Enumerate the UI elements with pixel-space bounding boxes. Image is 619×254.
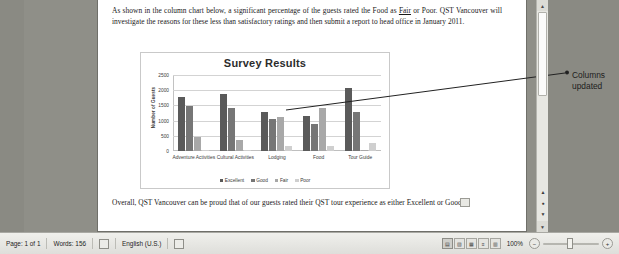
- chart-bar-excellent[interactable]: [178, 97, 185, 151]
- scrollbar-thumb[interactable]: [538, 12, 547, 96]
- outline-view-icon[interactable]: ≡: [478, 238, 489, 249]
- chart-bar-fair[interactable]: [361, 150, 368, 151]
- underlined-word: Fair: [399, 6, 411, 15]
- document-page[interactable]: As shown in the column chart below, a si…: [98, 0, 526, 231]
- chart-bar-poor[interactable]: [244, 150, 251, 151]
- chart-legend-swatch: [251, 179, 254, 182]
- chart-y-axis-title: Number of Guests: [151, 77, 156, 139]
- chart-legend-swatch: [220, 179, 223, 182]
- chart-y-tick-label: 1500: [158, 103, 169, 108]
- callout-leader-line: [280, 60, 580, 110]
- zoom-slider-thumb[interactable]: [567, 238, 573, 249]
- full-screen-reading-view-icon[interactable]: ▧: [454, 238, 465, 249]
- view-buttons-group: ▤▧▦≡▥: [442, 238, 501, 249]
- smart-tag-icon[interactable]: [460, 198, 470, 207]
- chart-legend-label: Poor: [300, 178, 310, 183]
- chart-legend-label: Good: [256, 178, 268, 183]
- chart-bar-poor[interactable]: [327, 146, 334, 151]
- chart-bar-poor[interactable]: [202, 150, 209, 151]
- paragraph-below-chart-text: Overall, QST Vancouver can be proud that…: [112, 198, 464, 207]
- chart-bar-fair[interactable]: [236, 140, 243, 151]
- document-page-content: As shown in the column chart below, a si…: [98, 0, 526, 231]
- chart-legend-swatch: [295, 179, 298, 182]
- chart-bar-good[interactable]: [228, 108, 235, 151]
- chart-bar-group[interactable]: Adventure Activities: [173, 75, 215, 151]
- next-page-icon[interactable]: ▼: [539, 210, 547, 218]
- zoom-level-label[interactable]: 100%: [504, 240, 526, 247]
- chart-y-tick-label: 500: [161, 133, 169, 138]
- chart-category-label: Adventure Activities: [171, 155, 217, 161]
- chart-category-label: Cultural Activities: [212, 155, 258, 161]
- zoom-out-button[interactable]: −: [529, 238, 540, 249]
- chart-category-label: Food: [296, 155, 342, 161]
- scroll-up-arrow-icon[interactable]: ▲: [537, 0, 548, 11]
- chart-category-label: Lodging: [254, 155, 300, 161]
- chart-bar-good[interactable]: [186, 106, 193, 151]
- callout-line-2: updated: [572, 81, 605, 92]
- chart-legend: ExcellentGoodFairPoor: [141, 178, 389, 183]
- chart-y-tick-label: 1000: [158, 118, 169, 123]
- chart-bar-group[interactable]: Cultural Activities: [215, 75, 257, 151]
- paragraph-above-chart[interactable]: As shown in the column chart below, a si…: [112, 6, 502, 27]
- chart-legend-item[interactable]: Poor: [295, 178, 310, 183]
- paragraph-below-chart[interactable]: Overall, QST Vancouver can be proud that…: [112, 198, 502, 209]
- chart-y-tick-label: 2500: [158, 73, 169, 78]
- zoom-slider[interactable]: [543, 239, 599, 248]
- status-word-count[interactable]: Words: 156: [47, 240, 92, 247]
- vertical-scrollbar[interactable]: ▲ ▲ ● ▼ ▼: [536, 0, 548, 232]
- chart-bar-good[interactable]: [269, 119, 276, 151]
- callout-annotation: Columns updated: [572, 70, 605, 91]
- chart-bar-fair[interactable]: [319, 108, 326, 151]
- workspace-left-gutter: [0, 0, 24, 232]
- chart-category-label: Tour Guide: [337, 155, 383, 161]
- chart-legend-swatch: [275, 179, 278, 182]
- chart-bar-good[interactable]: [353, 112, 360, 151]
- print-layout-view-icon[interactable]: ▤: [442, 238, 453, 249]
- chart-bar-excellent[interactable]: [220, 94, 227, 151]
- callout-line-1: Columns: [572, 70, 605, 81]
- chart-legend-label: Excellent: [225, 178, 244, 183]
- status-bar: Page: 1 of 1 Words: 156 English (U.S.) ▤…: [0, 232, 619, 254]
- status-track-changes[interactable]: [168, 239, 190, 249]
- chart-bar-fair[interactable]: [277, 117, 284, 151]
- chart-bar-excellent[interactable]: [303, 116, 310, 151]
- chart-legend-label: Fair: [280, 178, 288, 183]
- paragraph-above-chart-text: As shown in the column chart below, a si…: [112, 6, 502, 26]
- track-changes-icon[interactable]: [174, 239, 184, 249]
- chart-bar-good[interactable]: [311, 124, 318, 151]
- proofing-errors-icon[interactable]: [99, 239, 109, 249]
- workspace-right-gutter: [536, 0, 619, 232]
- scroll-down-arrow-icon[interactable]: ▼: [537, 221, 548, 232]
- chart-y-tick-label: 0: [166, 149, 169, 154]
- status-proofing-errors[interactable]: [93, 239, 115, 249]
- zoom-in-button[interactable]: +: [602, 238, 613, 249]
- chart-bar-excellent[interactable]: [261, 112, 268, 151]
- web-layout-view-icon[interactable]: ▦: [466, 238, 477, 249]
- chart-legend-item[interactable]: Good: [251, 178, 268, 183]
- draft-view-icon[interactable]: ▥: [490, 238, 501, 249]
- status-bar-right-group: ▤▧▦≡▥ 100% − +: [442, 238, 619, 249]
- status-language[interactable]: English (U.S.): [116, 240, 167, 247]
- chart-legend-item[interactable]: Fair: [275, 178, 288, 183]
- chart-bar-fair[interactable]: [194, 137, 201, 151]
- chart-bar-poor[interactable]: [369, 143, 376, 151]
- word-document-screenshot: As shown in the column chart below, a si…: [0, 0, 619, 254]
- chart-legend-item[interactable]: Excellent: [220, 178, 244, 183]
- chart-bar-poor[interactable]: [285, 146, 292, 151]
- chart-y-tick-label: 2000: [158, 88, 169, 93]
- status-page-number[interactable]: Page: 1 of 1: [0, 240, 46, 247]
- select-browse-object-icon[interactable]: ●: [539, 199, 547, 207]
- previous-page-icon[interactable]: ▲: [539, 188, 547, 196]
